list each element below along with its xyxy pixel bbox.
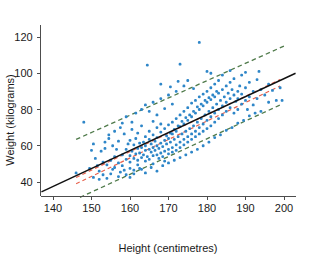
scatter-point (258, 70, 261, 73)
scatter-point (111, 168, 114, 171)
scatter-point (206, 90, 209, 93)
scatter-point (171, 146, 174, 149)
x-tick-label: 160 (121, 202, 139, 214)
scatter-point (117, 162, 120, 165)
scatter-point (152, 133, 155, 136)
scatter-point (152, 101, 155, 104)
scatter-point (138, 152, 141, 155)
scatter-point (206, 101, 209, 104)
scatter-point (229, 106, 232, 109)
scatter-point (140, 156, 143, 159)
scatter-point (209, 98, 212, 101)
scatter-point (119, 171, 122, 174)
scatter-point (144, 160, 147, 163)
y-tick-label: 100 (14, 67, 32, 79)
scatter-point (148, 148, 151, 151)
scatter-point (238, 85, 241, 88)
scatter-point (188, 127, 191, 130)
scatter-point (125, 148, 128, 151)
scatter-point (117, 140, 120, 143)
scatter-point (127, 143, 130, 146)
scatter-point (198, 41, 201, 44)
scatter-point (225, 110, 228, 113)
scatter-point (156, 126, 159, 129)
scatter-point (229, 97, 232, 100)
scatter-point (129, 176, 132, 179)
scatter-point (156, 144, 159, 147)
scatter-point (92, 176, 95, 179)
scatter-point (229, 69, 232, 72)
scatter-point (184, 153, 187, 156)
scatter-point (244, 86, 247, 89)
scatter-point (163, 150, 166, 153)
scatter-point (165, 143, 168, 146)
scatter-point (179, 141, 182, 144)
scatter-point (125, 158, 128, 161)
scatter-point (202, 93, 205, 96)
x-tick-label: 200 (275, 202, 293, 214)
scatter-point (148, 158, 151, 161)
scatter-point (256, 78, 259, 81)
scatter-point (115, 148, 118, 151)
x-tick-label: 170 (159, 202, 177, 214)
scatter-point (183, 143, 186, 146)
scatter-point (248, 81, 251, 84)
scatter-point (82, 121, 85, 124)
scatter-point (202, 130, 205, 133)
x-axis-title: Height (centimetres) (118, 242, 217, 254)
scatter-point (107, 133, 110, 136)
scatter-point (202, 104, 205, 107)
scatter-point (146, 155, 149, 158)
scatter-point (181, 133, 184, 136)
scatter-point (106, 163, 109, 166)
scatter-point (98, 170, 101, 173)
scatter-point (202, 123, 205, 126)
y-tick-label: 120 (14, 31, 32, 43)
scatter-point (167, 153, 170, 156)
scatter-point (213, 136, 216, 139)
scatter-point (209, 72, 212, 75)
scatter-point (209, 115, 212, 118)
scatter-point (136, 163, 139, 166)
scatter-point (159, 123, 162, 126)
scatter-point (244, 71, 247, 74)
scatter-point (217, 117, 220, 120)
scatter-point (217, 79, 220, 82)
scatter-point (190, 138, 193, 141)
scatter-point (134, 153, 137, 156)
scatter-point (119, 126, 122, 129)
scatter-point (144, 172, 147, 175)
scatter-point (142, 153, 145, 156)
scatter-point (150, 151, 153, 154)
scatter-point (152, 154, 155, 157)
scatter-point (138, 167, 141, 170)
scatter-point (198, 133, 201, 136)
scatter-point (233, 94, 236, 97)
scatter-point (156, 170, 159, 173)
scatter-point (167, 124, 170, 127)
scatter-point (209, 124, 212, 127)
x-tick-label: 150 (82, 202, 100, 214)
scatter-point (107, 137, 110, 140)
scatter-point (144, 104, 147, 107)
scatter-point (98, 178, 101, 181)
scatter-point (113, 130, 116, 133)
scatter-point (179, 63, 182, 66)
scatter-point (157, 157, 160, 160)
scatter-point (156, 114, 159, 117)
scatter-point (167, 137, 170, 140)
scatter-point (171, 151, 174, 154)
scatter-point (177, 80, 180, 83)
scatter-point (206, 127, 209, 130)
scatter-point (104, 141, 107, 144)
scatter-point (240, 74, 243, 77)
scatter-point (236, 90, 239, 93)
scatter-point (171, 121, 174, 124)
scatter-point (275, 99, 278, 102)
scatter-point (179, 114, 182, 117)
scatter-point (131, 128, 134, 131)
scatter-point (240, 103, 243, 106)
scatter-point (92, 143, 95, 146)
scatter-point (244, 99, 247, 102)
scatter-point (169, 141, 172, 144)
